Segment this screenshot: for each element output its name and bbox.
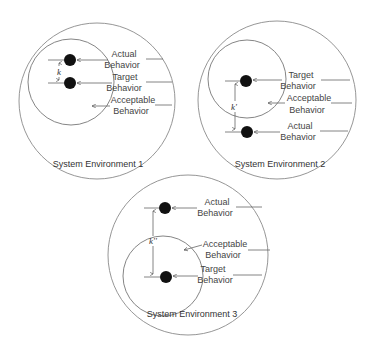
target-behavior-label: Behavior xyxy=(280,81,316,91)
actual-behavior-point xyxy=(159,202,171,214)
actual-behavior-point xyxy=(64,54,76,66)
environment-title: System Environment 3 xyxy=(147,309,238,319)
target-behavior-label: Target xyxy=(288,70,314,80)
distance-label-k: k xyxy=(57,67,62,77)
system-environment-1: k Actual Behavior Target Behavior Accept… xyxy=(19,23,175,179)
acceptable-behavior-label: Acceptable xyxy=(203,239,248,249)
environment-title: System Environment 1 xyxy=(53,159,144,169)
environment-title: System Environment 2 xyxy=(235,159,326,169)
acceptable-behavior-label: Acceptable xyxy=(287,93,332,103)
target-behavior-label: Behavior xyxy=(197,275,233,285)
actual-behavior-label: Behavior xyxy=(280,132,316,142)
target-behavior-label: Target xyxy=(112,72,138,82)
target-behavior-point xyxy=(240,75,252,87)
behavior-diagram: k Actual Behavior Target Behavior Accept… xyxy=(0,0,372,349)
acceptable-behavior-label: Behavior xyxy=(113,106,149,116)
environment-boundary xyxy=(198,21,356,179)
system-environment-3: k'' Actual Behavior Acceptable Behavior … xyxy=(108,175,270,335)
target-behavior-label: Target xyxy=(200,264,226,274)
distance-label-k-prime: k' xyxy=(231,102,238,112)
acceptable-behavior-label: Behavior xyxy=(289,105,325,115)
acceptable-behavior-label: Behavior xyxy=(205,250,241,260)
actual-behavior-point xyxy=(241,126,253,138)
distance-label-k-double-prime: k'' xyxy=(149,236,158,246)
acceptable-behavior-label: Acceptable xyxy=(111,95,156,105)
actual-behavior-label: Actual xyxy=(111,49,136,59)
target-behavior-point xyxy=(64,77,76,89)
actual-behavior-label: Behavior xyxy=(104,60,140,70)
actual-behavior-label: Behavior xyxy=(197,208,233,218)
target-behavior-label: Behavior xyxy=(106,83,142,93)
target-behavior-point xyxy=(160,271,172,283)
actual-behavior-label: Actual xyxy=(204,197,229,207)
actual-behavior-label: Actual xyxy=(287,121,312,131)
system-environment-2: k' Target Behavior Acceptable Behavior A… xyxy=(198,21,356,179)
